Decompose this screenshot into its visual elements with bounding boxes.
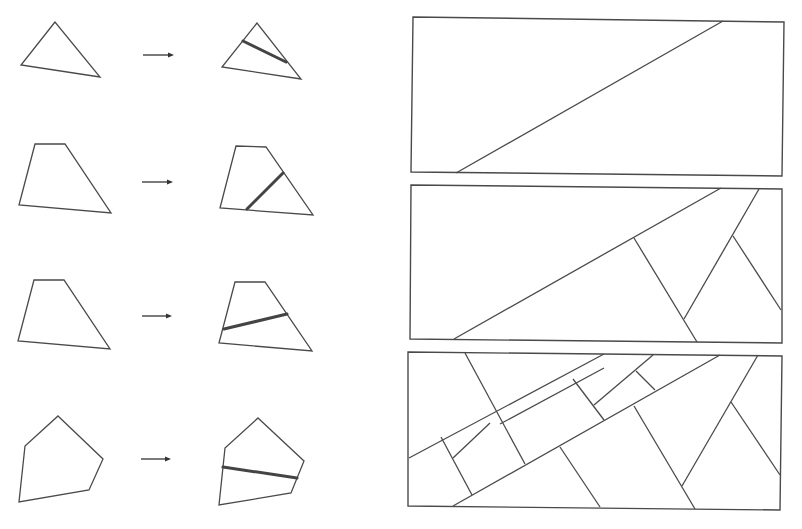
partition-line (634, 238, 697, 342)
partition-line (573, 379, 604, 420)
source-triangle (21, 22, 100, 77)
polygon-cut-examples (18, 22, 313, 505)
arrow-right-icon (142, 180, 173, 185)
partition-line (465, 353, 525, 464)
partition-line (682, 355, 758, 486)
partition-line (500, 368, 604, 424)
rectangle-partition-steps (408, 17, 784, 510)
partition-line (684, 189, 759, 319)
partition-line (731, 402, 780, 475)
partition-line (409, 354, 604, 458)
source-quadrilateral-b (18, 280, 110, 349)
cut-line (247, 173, 283, 209)
source-pentagon (19, 416, 103, 502)
example-row-triangle (21, 22, 301, 79)
example-row-quadrilateral-a (19, 144, 313, 215)
arrow-right-icon (143, 53, 174, 58)
source-quadrilateral-a (19, 144, 111, 213)
example-row-pentagon (19, 416, 304, 505)
result-pentagon (219, 418, 304, 505)
arrow-right-icon (142, 314, 172, 319)
rectangle-step-2 (410, 185, 782, 343)
example-row-quadrilateral-b (18, 280, 312, 351)
result-quadrilateral-a (220, 146, 313, 215)
partition-line (634, 406, 695, 509)
rectangle-outline (410, 185, 782, 343)
rectangle-outline (411, 17, 784, 176)
partition-line (456, 21, 723, 173)
partition-line (441, 437, 472, 495)
cut-line (224, 314, 287, 329)
partition-line (453, 423, 490, 458)
partition-line (733, 236, 781, 310)
rectangle-outline (408, 352, 782, 510)
rectangle-step-1 (411, 17, 784, 176)
partition-line (636, 371, 655, 390)
partition-line (560, 447, 600, 507)
rectangle-step-3 (408, 352, 782, 510)
cut-line (223, 467, 297, 478)
result-quadrilateral-b (219, 282, 312, 351)
arrow-right-icon (141, 457, 171, 462)
diagram-canvas (0, 0, 802, 529)
